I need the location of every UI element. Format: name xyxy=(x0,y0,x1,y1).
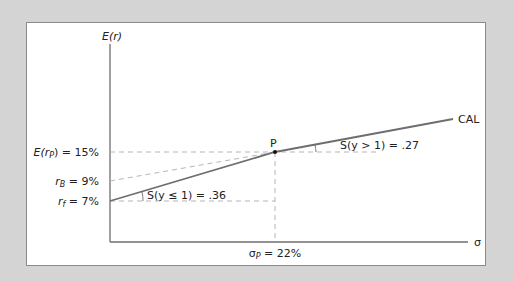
slope-lending-label: S(y ≤ 1) = .36 xyxy=(147,189,226,202)
slope2-arc xyxy=(315,145,316,152)
x-axis-label: σ xyxy=(474,236,481,249)
rb-tick-label: rB = 9% xyxy=(55,175,99,189)
cal-label: CAL xyxy=(458,113,480,126)
slope-borrowing-label: S(y > 1) = .27 xyxy=(340,139,419,152)
point-p-label: P xyxy=(270,137,277,150)
rf-tick-label: rf = 7% xyxy=(58,195,99,209)
cal-chart: E(r) σ CAL P E(rP) = 15% rB = 9% rf = 7%… xyxy=(0,0,514,282)
point-p-marker xyxy=(273,150,277,154)
figure: E(r) σ CAL P E(rP) = 15% rB = 9% rf = 7%… xyxy=(0,0,514,282)
sigmap-tick-label: σP = 22% xyxy=(249,247,301,261)
erp-tick-label: E(rP) = 15% xyxy=(33,146,99,160)
y-axis-label: E(r) xyxy=(102,30,122,43)
slope1-arc xyxy=(142,192,143,201)
